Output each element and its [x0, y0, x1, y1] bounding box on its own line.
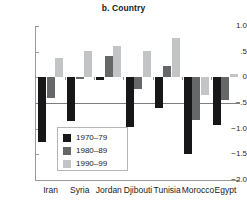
legend-label: 1970–79 [76, 134, 107, 142]
bar [172, 38, 180, 77]
x-category-label: Djibouti [123, 185, 152, 195]
legend-label: 1990–99 [76, 160, 107, 168]
bar [38, 77, 46, 142]
chart-title: b. Country [0, 3, 247, 13]
bar [201, 77, 209, 94]
bar [192, 77, 200, 120]
bar [47, 77, 55, 98]
legend: 1970–791980–891990–99 [57, 127, 128, 171]
bar [155, 77, 163, 107]
legend-label: 1980–89 [76, 147, 107, 155]
y-tick-mark [36, 180, 39, 181]
x-group-tick [182, 77, 183, 80]
x-group-tick [153, 77, 154, 80]
legend-entries: 1970–791980–891990–99 [63, 131, 127, 170]
x-category-label: Jordan [94, 185, 123, 195]
x-group-tick [94, 77, 95, 80]
legend-swatch [63, 160, 71, 168]
bar [230, 74, 238, 78]
x-category-label: Egypt [211, 185, 240, 195]
legend-swatch [63, 134, 71, 142]
bar [84, 51, 92, 77]
legend-entry: 1970–79 [63, 131, 127, 144]
x-axis-line [35, 180, 240, 181]
legend-entry: 1980–89 [63, 144, 127, 157]
bar [184, 77, 192, 154]
bar [143, 51, 151, 78]
bar [126, 77, 134, 127]
x-group-tick [123, 77, 124, 80]
bar [76, 77, 84, 79]
x-group-tick [211, 77, 212, 80]
x-group-tick [65, 77, 66, 80]
bar [113, 46, 121, 78]
x-category-label: Iran [36, 185, 65, 195]
bar [213, 77, 221, 125]
bar [221, 77, 229, 100]
legend-entry: 1990–99 [63, 157, 127, 170]
bar [55, 58, 63, 78]
bar [96, 77, 104, 80]
chart-container: b. Country 1.0.50−.5−1.0−1.5−2.0 IranSyr… [0, 0, 247, 200]
bar [67, 77, 75, 121]
bar [163, 66, 171, 78]
x-category-label: Morocco [182, 185, 211, 195]
bar [134, 77, 142, 89]
bar [105, 56, 113, 77]
legend-swatch [63, 147, 71, 155]
x-category-label: Tunisia [153, 185, 182, 195]
x-category-label: Syria [65, 185, 94, 195]
